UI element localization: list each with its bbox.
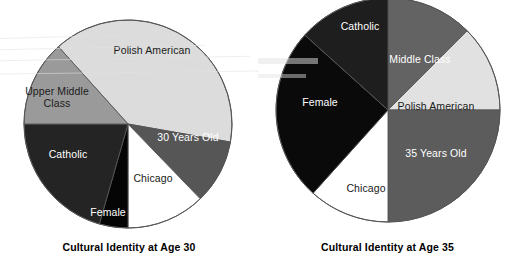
pie-svg-age-30: Polish American30 Years OldChicagoFemale…: [0, 0, 258, 238]
pie-slice-label: Chicago: [133, 172, 172, 184]
pie-slice-label: Polish American: [398, 100, 475, 112]
figure-root: Polish American30 Years OldChicagoFemale…: [0, 0, 517, 264]
pie-slice-label: Female: [302, 96, 338, 108]
pie-chart-age-30: Polish American30 Years OldChicagoFemale…: [0, 0, 258, 264]
pie-slice-wedge[interactable]: [388, 110, 500, 222]
pie-slice[interactable]: [388, 110, 500, 222]
pie-svg-age-35: Middle ClassPolish American35 Years OldC…: [258, 0, 517, 238]
pie-slice-label: Female: [90, 206, 126, 218]
pie-slice-label: Polish American: [114, 44, 191, 56]
pie-slice-label: 30 Years Old: [157, 131, 218, 143]
pie-canvas-age-30: Polish American30 Years OldChicagoFemale…: [0, 0, 258, 238]
pie-slice-label: Catholic: [49, 148, 88, 160]
pie-chart-age-35: Middle ClassPolish American35 Years OldC…: [258, 0, 517, 264]
pie-slice-label: Middle Class: [389, 53, 450, 65]
chart-title-age-30: Cultural Identity at Age 30: [0, 241, 258, 253]
pie-slice-label: Chicago: [346, 182, 385, 194]
pie-slice-label: 35 Years Old: [405, 147, 466, 159]
pie-slice-label: Catholic: [341, 20, 380, 32]
chart-title-age-35: Cultural Identity at Age 35: [258, 241, 517, 253]
pie-canvas-age-35: Middle ClassPolish American35 Years OldC…: [258, 0, 517, 238]
